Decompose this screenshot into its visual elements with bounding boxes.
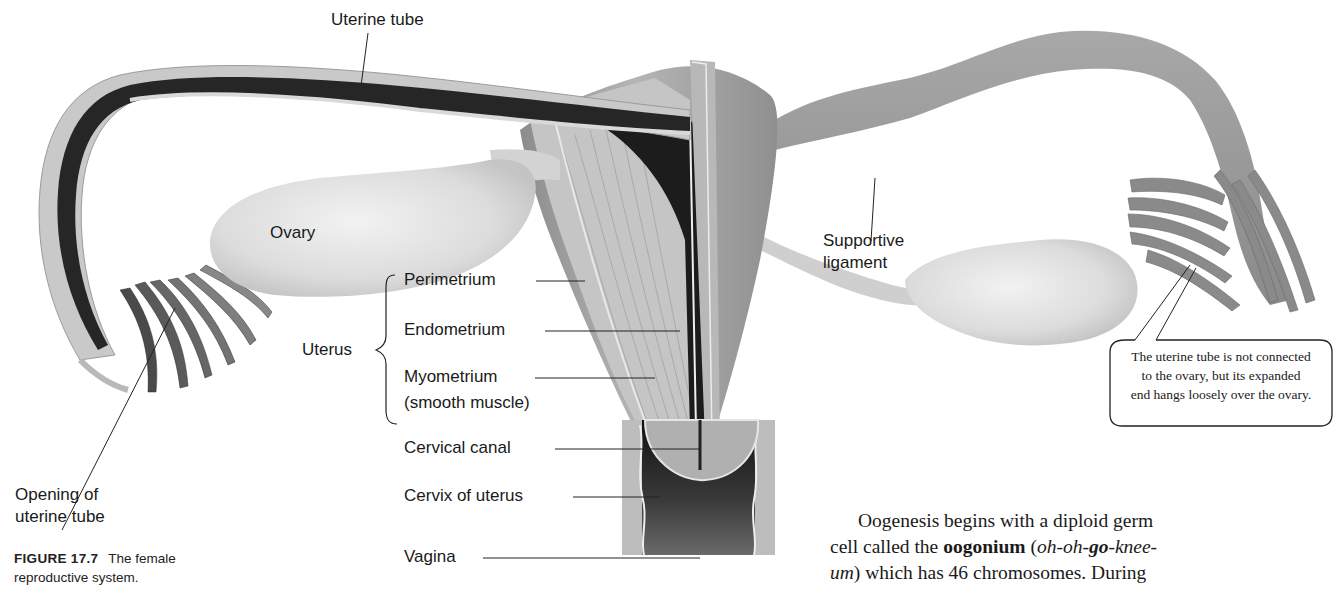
callout-line1: The uterine tube is not connected (1108, 347, 1334, 366)
label-vagina: Vagina (404, 547, 456, 567)
label-uterine-tube: Uterine tube (331, 10, 424, 30)
left-ovary (210, 149, 560, 297)
pronunciation-part1: oh-oh- (1037, 536, 1089, 557)
term-oogonium: oogonium (943, 536, 1025, 557)
label-cervical-canal: Cervical canal (404, 438, 511, 458)
label-ovary: Ovary (270, 223, 315, 243)
body-line2-paren: ( (1026, 536, 1037, 557)
body-line3: ) which has 46 chromosomes. During (854, 562, 1146, 583)
uterus-brace (376, 275, 397, 424)
body-paragraph: Oogenesis begins with a diploid germ cel… (830, 508, 1334, 586)
pronunciation-stress: go (1089, 536, 1109, 557)
pronunciation-part3: um (830, 562, 854, 583)
label-supportive-line1: Supportive (823, 231, 904, 251)
label-endometrium: Endometrium (404, 320, 505, 340)
label-supportive-line2: ligament (823, 253, 887, 273)
pronunciation-part2: -knee- (1108, 536, 1157, 557)
label-myometrium: Myometrium (404, 367, 498, 387)
label-perimetrium: Perimetrium (404, 270, 496, 290)
label-uterus: Uterus (302, 340, 352, 360)
figure-number: FIGURE 17.7 (14, 551, 98, 566)
caption-line1: The female (108, 551, 176, 566)
right-uterine-tube (760, 31, 1315, 346)
label-opening-line2: uterine tube (15, 507, 105, 527)
label-myometrium-note: (smooth muscle) (404, 393, 530, 413)
callout-note: The uterine tube is not connected to the… (1108, 340, 1334, 426)
label-cervix: Cervix of uterus (404, 486, 523, 506)
caption-line2: reproductive system. (14, 568, 176, 587)
figure-caption: FIGURE 17.7The female reproductive syste… (14, 549, 176, 587)
body-line2-pre: cell called the (830, 536, 943, 557)
callout-line2: to the ovary, but its expanded (1108, 366, 1334, 385)
textbook-page: Uterine tube Ovary Opening of uterine tu… (0, 0, 1334, 600)
cervix-vagina (622, 420, 775, 555)
label-opening-line1: Opening of (15, 485, 98, 505)
callout-line3: end hangs loosely over the ovary. (1108, 385, 1334, 404)
body-line1: Oogenesis begins with a diploid germ (858, 510, 1153, 531)
